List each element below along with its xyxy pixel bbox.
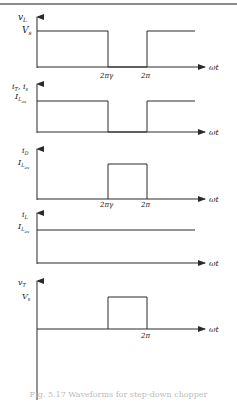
tick-2pigamma-iD: 2πγ <box>99 201 114 209</box>
tick-2pi-vT: 2π <box>140 332 150 340</box>
waveform-iD <box>108 164 147 199</box>
level-iL: ILav <box>17 222 30 234</box>
panel-vT: vT Vs 2π ωt <box>18 278 220 400</box>
xlabel-vL: ωt <box>209 63 220 72</box>
ylabel-vL: vL <box>18 12 27 23</box>
ylabel-iD: iD <box>22 146 29 156</box>
ylabel-vT: vT <box>18 278 27 288</box>
waveform-figure: vL Vs 2πγ 2π ωt iT, is ILav ωt iD ILav 2… <box>0 0 237 406</box>
level-iD: ILav <box>17 158 30 170</box>
panel-vL: vL Vs 2πγ 2π ωt <box>18 12 220 80</box>
figure-caption: Fig. 5.17 Waveforms for step-down choppe… <box>0 390 237 399</box>
waveform-vL <box>37 31 195 67</box>
panel-iD: iD ILav 2πγ 2π ωt <box>17 146 220 209</box>
level-vT: Vs <box>22 292 31 302</box>
waveform-iT <box>37 101 195 132</box>
waveform-diagram: vL Vs 2πγ 2π ωt iT, is ILav ωt iD ILav 2… <box>0 0 237 406</box>
xlabel-iD: ωt <box>209 195 220 204</box>
panel-iL: iL ILav ωt <box>17 210 220 268</box>
xlabel-vT: ωt <box>209 325 220 334</box>
xlabel-iT: ωt <box>209 128 220 137</box>
xlabel-iL: ωt <box>209 259 220 268</box>
tick-2pi-iD: 2π <box>140 201 150 209</box>
ylabel-iL: iL <box>22 210 29 220</box>
ylabel-iT: iT, is <box>12 82 29 92</box>
level-vL: Vs <box>22 25 32 36</box>
panel-iT: iT, is ILav ωt <box>12 82 220 137</box>
level-iT: ILav <box>14 92 27 104</box>
tick-2pigamma-vL: 2πγ <box>99 72 114 80</box>
tick-2pi-vL: 2π <box>140 72 150 80</box>
waveform-vT <box>108 297 147 329</box>
